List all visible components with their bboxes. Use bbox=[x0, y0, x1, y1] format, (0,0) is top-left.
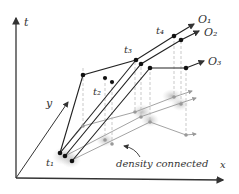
time-label-t2: t₂ bbox=[93, 86, 101, 97]
y-axis-label: y bbox=[45, 97, 53, 110]
trajectory-diagram: t x y t₁ t₂ t₃ t₄ O₁ O₂ O₃ density conne… bbox=[0, 0, 239, 194]
object-label-o1: O₁ bbox=[198, 13, 211, 26]
object-label-o2: O₂ bbox=[204, 26, 217, 39]
time-label-t3: t₃ bbox=[124, 44, 132, 55]
x-axis bbox=[16, 178, 223, 180]
density-connected-label: density connected bbox=[116, 158, 208, 169]
time-label-t1: t₁ bbox=[46, 157, 54, 168]
object-label-o3: O₃ bbox=[208, 55, 221, 68]
annotation-arrow bbox=[124, 146, 140, 157]
t-axis-label: t bbox=[24, 16, 29, 29]
x-axis-label: x bbox=[220, 159, 226, 170]
y-axis bbox=[16, 102, 68, 178]
time-label-t4: t₄ bbox=[156, 25, 164, 36]
